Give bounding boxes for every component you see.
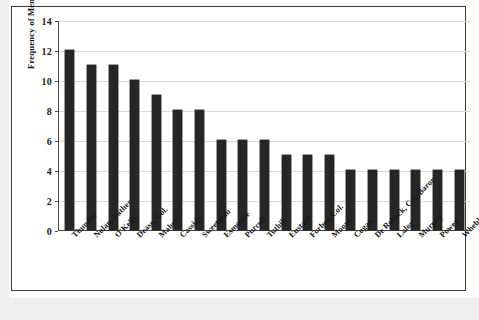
bar-slot — [59, 21, 81, 230]
x-tick-label: Power — [438, 233, 444, 239]
bar-slot — [167, 21, 189, 230]
y-tick-label: 12 — [42, 46, 52, 57]
scan-edge-left — [0, 0, 9, 320]
x-tick-label: Thunder — [70, 233, 76, 239]
x-tick-label: Nolan, Father — [92, 233, 98, 239]
bar-slot — [232, 21, 254, 230]
bar-slot — [146, 21, 168, 230]
x-tick-label: Wheble — [460, 233, 466, 239]
x-tick-label: O'Kelly — [113, 233, 119, 239]
x-tick-label: Cogan — [352, 233, 358, 239]
y-axis-title: Frequency of Mentions — [26, 0, 36, 69]
bar[interactable] — [173, 110, 182, 230]
bar[interactable] — [109, 65, 118, 230]
y-tick-label: 8 — [47, 106, 52, 117]
y-tick-label: 10 — [42, 76, 52, 87]
x-tick-label: Murphy — [417, 233, 423, 239]
bar-slot — [275, 21, 297, 230]
y-tick-label: 14 — [42, 16, 52, 27]
bar-slot — [427, 21, 449, 230]
bar-slot — [340, 21, 362, 230]
y-tick-label: 2 — [47, 196, 52, 207]
y-tick-label: 0 — [47, 226, 52, 237]
x-tick-label: Sweetman — [200, 233, 206, 239]
bar-slot — [210, 21, 232, 230]
bar-slot — [383, 21, 405, 230]
y-tick-label: 6 — [47, 136, 52, 147]
x-tick-label: Tuthill — [265, 233, 271, 239]
bar-slot — [189, 21, 211, 230]
x-tick-label: Maher — [157, 233, 163, 239]
x-tick-label: Lalor — [395, 233, 401, 239]
x-tick-label: Dease, Col. — [135, 233, 141, 239]
x-tick-label: Eustace — [287, 233, 293, 239]
y-tick-mark — [55, 231, 58, 232]
x-tick-label: Moore — [330, 233, 336, 239]
x-tick-label: Purcell — [243, 233, 249, 239]
chart-figure: Frequency of Mentions 02468101214 Thunde… — [0, 0, 479, 320]
scan-edge-bottom — [0, 298, 479, 320]
bar[interactable] — [65, 50, 74, 230]
bar-slot — [362, 21, 384, 230]
y-tick-label: 4 — [47, 166, 52, 177]
bar[interactable] — [130, 80, 139, 230]
x-tick-label: Esmonde — [222, 233, 228, 239]
x-axis-labels: ThunderNolan, FatherO'KellyDease, Col.Ma… — [58, 233, 470, 293]
bar-slot — [297, 21, 319, 230]
bar[interactable] — [87, 65, 96, 230]
bar-slot — [319, 21, 341, 230]
chart-frame: Frequency of Mentions 02468101214 Thunde… — [11, 6, 466, 291]
x-tick-label: De Robeck, Col. Baron — [373, 233, 379, 239]
bar-slot — [448, 21, 470, 230]
bar-slot — [102, 21, 124, 230]
bar-slot — [81, 21, 103, 230]
bar[interactable] — [195, 110, 204, 230]
x-tick-label: Forbes, Col. — [308, 233, 314, 239]
bar-slot — [254, 21, 276, 230]
x-tick-label: Cassidy — [178, 233, 184, 239]
